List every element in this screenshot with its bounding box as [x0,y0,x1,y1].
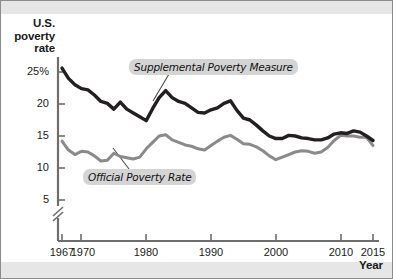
axis-break-slash-1 [53,207,63,216]
x-axis-title: Year [331,259,383,272]
y-tick-label-15: 15 [5,129,49,141]
y-axis-title-line-1: U.S. [9,17,55,30]
y-axis-title-line-2: poverty [9,30,55,43]
axis-lines [53,57,379,241]
x-tick-label-1970: 1970 [63,246,103,258]
x-tick-label-1980: 1980 [126,246,166,258]
y-axis-title-line-3: rate [9,42,55,55]
callout-official-poverty-rate: Official Poverty Rate [83,169,196,185]
y-tick-label-25: 25% [5,65,49,77]
series-line-supplemental-poverty-measure [62,68,373,140]
x-tick-label-1990: 1990 [191,246,231,258]
y-axis-title: U.S. poverty rate [9,17,55,55]
line-chart-plot [1,1,393,279]
callout-supplemental-poverty-measure: Supplemental Poverty Measure [129,59,298,75]
chart-figure: U.S. poverty rate Year 25% 20 15 10 5 19… [0,0,393,279]
y-tick-label-20: 20 [5,97,49,109]
y-tick-label-10: 10 [5,161,49,173]
y-tick-label-5: 5 [5,193,49,205]
x-tick-label-2015: 2015 [353,246,393,258]
x-tick-label-2000: 2000 [256,246,296,258]
